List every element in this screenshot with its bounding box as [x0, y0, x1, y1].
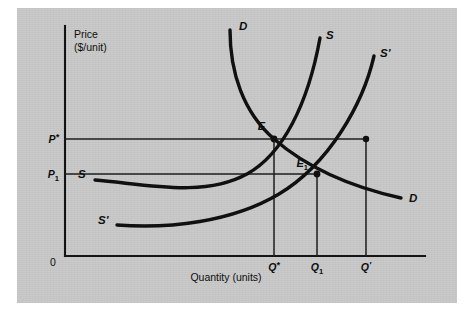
x-axis-title: Quantity (units)	[190, 271, 261, 283]
equilibrium-point-e	[271, 136, 278, 143]
equilibrium-label-e: E	[258, 120, 266, 132]
y-tick-label-p-star: P*	[48, 132, 59, 145]
equilibrium-label-e1: E1	[296, 157, 308, 172]
figure-root: Price ($/unit) Quantity (units) 0 P* P1 …	[0, 0, 474, 311]
x-tick-label-q-star: Q*	[268, 260, 280, 273]
y-axis-title-line1: Price	[74, 28, 98, 40]
supply-demand-chart: Price ($/unit) Quantity (units) 0 P* P1 …	[17, 8, 457, 303]
diagram-plate: Price ($/unit) Quantity (units) 0 P* P1 …	[17, 8, 457, 303]
y-tick-label-p-one: P1	[48, 168, 59, 183]
curve-label-supply-shifted-top: S'	[380, 47, 392, 59]
quantity-supplied-point-q-prime	[363, 136, 369, 142]
supply-curve-original	[95, 38, 320, 188]
curve-label-supply-shifted-left: S'	[98, 214, 110, 226]
curve-label-supply-left: S	[78, 168, 86, 180]
x-tick-label-q-prime: Q'	[361, 260, 372, 273]
curve-label-supply-top: S	[326, 29, 334, 41]
curve-label-demand-bottom: D	[409, 192, 417, 204]
x-tick-label-q-one: Q1	[311, 261, 323, 276]
y-axis-title-line2: ($/unit)	[74, 41, 107, 53]
equilibrium-point-e1	[314, 171, 321, 178]
curve-label-demand-top: D	[239, 20, 247, 32]
origin-label: 0	[50, 256, 56, 268]
supply-curve-shifted	[117, 56, 374, 226]
